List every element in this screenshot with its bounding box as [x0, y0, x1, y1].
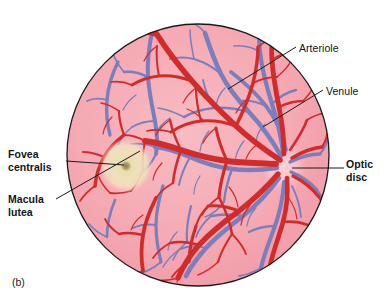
label-venule: Venule — [326, 85, 358, 98]
macula-lutea-region — [99, 139, 153, 193]
fovea-centralis-spot — [121, 161, 132, 172]
label-arteriole: Arteriole — [299, 42, 339, 55]
figure-caption: (b) — [12, 276, 25, 288]
label-macula-lutea: Macula lutea — [8, 193, 44, 218]
label-optic-disc: Optic disc — [346, 158, 373, 183]
label-fovea-centralis: Fovea centralis — [8, 148, 52, 173]
